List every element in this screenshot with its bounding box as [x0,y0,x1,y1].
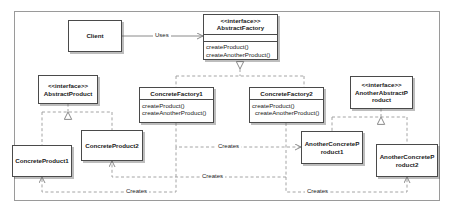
node-another-concrete-product-2-title: AnotherConcreteP roduct2 [377,145,437,176]
edge-label-creates-bottom-left: Creates [124,188,149,194]
node-concrete-factory-2[interactable]: ConcreteFactory2 createProduct() createA… [249,87,324,123]
node-abstract-factory-title: <<interface>> AbstractFactory [204,15,277,35]
node-another-concrete-product-2-name-line2: roduct2 [396,161,419,168]
node-abstract-product-name: AbstractProduct [44,90,92,97]
node-concrete-product-1[interactable]: ConcreteProduct1 [12,145,72,177]
node-another-abstract-product-name-line2: roduct [372,96,391,103]
node-abstract-factory-name: AbstractFactory [217,24,264,31]
node-concrete-factory-1-operations: createProduct() createAnotherProduct() [140,100,213,117]
operation: createProduct() [206,43,275,50]
node-abstract-product-stereotype: <<interface>> [48,82,88,89]
node-concrete-factory-2-name: ConcreteFactory2 [260,90,313,97]
node-abstract-factory[interactable]: <<interface>> AbstractFactory createProd… [203,14,278,60]
node-concrete-factory-1-title: ConcreteFactory1 [140,88,213,100]
node-another-concrete-product-1-name-line1: AnotherConcreteP [305,140,360,147]
node-concrete-factory-2-title: ConcreteFactory2 [250,88,323,100]
node-another-concrete-product-1[interactable]: AnotherConcreteP roduct1 [301,131,363,164]
edge-label-creates-top: Creates [216,143,241,149]
node-abstract-factory-operations: createProduct() createAnotherProduct() [204,42,277,59]
operation: createProduct() [252,102,321,109]
node-another-concrete-product-1-name-line2: roduct1 [321,148,344,155]
node-abstract-product[interactable]: <<interface>> AbstractProduct [38,75,98,104]
node-concrete-factory-1[interactable]: ConcreteFactory1 createProduct() createA… [139,87,214,123]
node-client-name: Client [86,32,103,39]
node-another-concrete-product-1-title: AnotherConcreteP roduct1 [302,132,362,163]
edge-label-creates-mid: Creates [200,173,225,179]
node-abstract-factory-stereotype: <<interface>> [220,17,260,24]
node-another-concrete-product-2-name-line1: AnotherConcreteP [380,153,435,160]
node-concrete-product-1-name: ConcreteProduct1 [15,157,69,164]
node-client[interactable]: Client [68,20,122,52]
node-abstract-factory-attributes [204,35,277,42]
operation: createProduct() [142,102,211,109]
node-concrete-product-2[interactable]: ConcreteProduct2 [81,130,143,161]
edge-label-creates-bottom-right: Creates [305,188,330,194]
node-concrete-factory-1-name: ConcreteFactory1 [150,90,203,97]
uml-class-diagram-canvas: Client <<interface>> AbstractFactory cre… [0,0,454,213]
node-concrete-factory-2-operations: createProduct() createAnotherProduct() [250,100,323,117]
node-another-abstract-product-stereotype: <<interface>> [361,81,401,88]
node-another-abstract-product-title: <<interface>> AnotherAbstractP roduct [351,77,412,108]
operation: createAnotherProduct() [206,51,275,58]
operation: createAnotherProduct() [252,109,321,116]
edge-label-uses: Uses [153,32,171,38]
node-abstract-product-title: <<interface>> AbstractProduct [39,76,97,103]
node-another-abstract-product[interactable]: <<interface>> AnotherAbstractP roduct [350,76,413,109]
node-client-title: Client [69,21,121,51]
operation: createAnotherProduct() [142,109,211,116]
node-concrete-product-2-title: ConcreteProduct2 [82,131,142,160]
node-concrete-product-2-name: ConcreteProduct2 [85,142,139,149]
node-concrete-product-1-title: ConcreteProduct1 [13,146,71,176]
node-another-abstract-product-name-line1: AnotherAbstractP [355,89,408,96]
node-another-concrete-product-2[interactable]: AnotherConcreteP roduct2 [376,144,438,177]
